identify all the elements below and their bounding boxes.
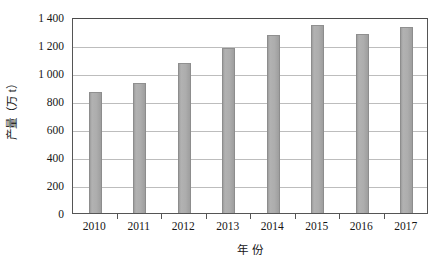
x-axis-tick-mark [339, 213, 340, 219]
y-axis-tick-label: 400 [47, 152, 64, 164]
gridline [73, 187, 427, 188]
y-axis-tick-label: 1 200 [38, 40, 64, 52]
x-axis-tick-mark [206, 213, 207, 219]
x-axis-tick-mark [384, 213, 385, 219]
x-axis-tick-label-2017: 2017 [394, 220, 417, 232]
bar-chart-figure: 产量（万 t） 02004006008001 0001 2001 400 201… [0, 0, 439, 265]
bar-2010 [89, 92, 102, 213]
gridline [73, 75, 427, 76]
x-axis-tick-label-2011: 2011 [127, 220, 150, 232]
x-axis-tick-label-2014: 2014 [261, 220, 284, 232]
x-axis-tick-mark [161, 213, 162, 219]
gridline [73, 103, 427, 104]
bar-2016 [356, 34, 369, 213]
y-axis-tick-label: 0 [58, 208, 64, 220]
bar-2011 [133, 83, 146, 213]
bar-2013 [222, 48, 235, 213]
gridline [73, 159, 427, 160]
bar-2017 [400, 27, 413, 213]
y-axis-title: 产量（万 t） [0, 0, 22, 218]
x-axis-tick-label-2012: 2012 [172, 220, 195, 232]
x-axis-tick-labels: 20102011201220132014201520162017 [72, 220, 428, 240]
y-axis-title-text: 产量（万 t） [3, 78, 19, 140]
x-axis-tick-label-2016: 2016 [350, 220, 373, 232]
gridline [73, 47, 427, 48]
x-axis-tick-marks [72, 213, 428, 219]
y-axis-tick-label: 800 [47, 96, 64, 108]
x-axis-title: 年 份 [72, 241, 428, 257]
plot-area [72, 18, 428, 214]
y-axis-tick-label: 200 [47, 180, 64, 192]
bar-2014 [267, 35, 280, 214]
y-axis-tick-label: 600 [47, 124, 64, 136]
x-axis-tick-mark [250, 213, 251, 219]
x-axis-tick-label-2015: 2015 [305, 220, 328, 232]
bar-2012 [178, 63, 191, 213]
x-axis-tick-label-2010: 2010 [83, 220, 106, 232]
x-axis-tick-mark [295, 213, 296, 219]
bar-2015 [311, 25, 324, 213]
x-axis-tick-mark [117, 213, 118, 219]
x-axis-tick-label-2013: 2013 [216, 220, 239, 232]
y-axis-tick-labels: 02004006008001 0001 2001 400 [20, 0, 68, 265]
y-axis-tick-label: 1 400 [38, 12, 64, 24]
y-axis-tick-label: 1 000 [38, 68, 64, 80]
gridline [73, 131, 427, 132]
